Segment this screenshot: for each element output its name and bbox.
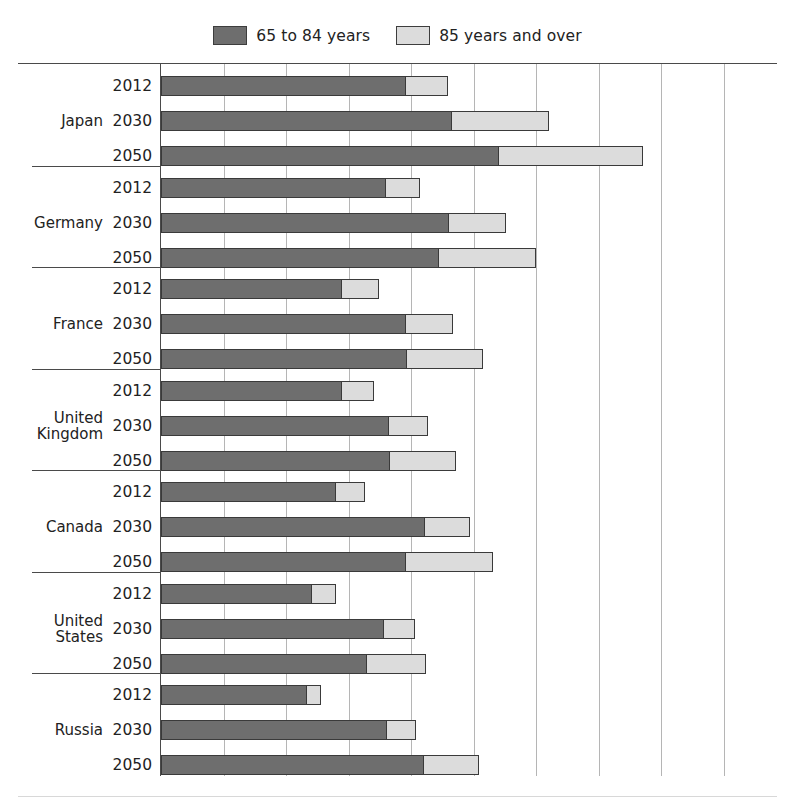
bar-row[interactable] <box>161 552 493 572</box>
bar-segment[interactable] <box>386 720 416 740</box>
group-separator <box>32 673 160 674</box>
bar-segment[interactable] <box>161 213 449 233</box>
bar-row[interactable] <box>161 654 426 674</box>
bar-segment[interactable] <box>438 248 537 268</box>
year-label: 2030 <box>113 416 152 436</box>
bar-segment[interactable] <box>161 76 406 96</box>
country-label: Russia <box>55 722 103 738</box>
bar-segment[interactable] <box>161 248 439 268</box>
bar-row[interactable] <box>161 416 428 436</box>
legend-item-85-plus: 85 years and over <box>396 26 582 45</box>
bar-segment[interactable] <box>335 482 365 502</box>
bar-segment[interactable] <box>161 619 384 639</box>
bar-segment[interactable] <box>161 314 406 334</box>
bar-row[interactable] <box>161 279 379 299</box>
legend-swatch-65-84 <box>213 26 247 45</box>
category-axis-labels: Japan201220302050Germany201220302050Fran… <box>18 64 160 776</box>
year-label: 2050 <box>113 451 152 471</box>
bar-row[interactable] <box>161 517 470 537</box>
group-separator <box>32 369 160 370</box>
bar-row[interactable] <box>161 755 479 775</box>
bar-segment[interactable] <box>341 279 379 299</box>
bottom-edge <box>18 796 777 797</box>
bar-segment[interactable] <box>161 654 367 674</box>
year-label: 2050 <box>113 349 152 369</box>
bar-row[interactable] <box>161 178 420 198</box>
bar-segment[interactable] <box>161 517 425 537</box>
group-separator <box>32 267 160 268</box>
bar-segment[interactable] <box>385 178 420 198</box>
gridline <box>724 64 725 776</box>
year-label: 2012 <box>113 584 152 604</box>
year-label: 2030 <box>113 314 152 334</box>
bar-segment[interactable] <box>161 279 342 299</box>
chart-page: 65 to 84 years 85 years and over Japan20… <box>0 0 795 809</box>
bar-segment[interactable] <box>161 349 407 369</box>
year-label: 2030 <box>113 720 152 740</box>
bar-segment[interactable] <box>366 654 426 674</box>
bar-segment[interactable] <box>306 685 321 705</box>
chart-frame: Japan201220302050Germany201220302050Fran… <box>18 63 777 775</box>
year-label: 2030 <box>113 213 152 233</box>
group-separator <box>32 470 160 471</box>
bar-segment[interactable] <box>161 146 499 166</box>
bar-row[interactable] <box>161 451 456 471</box>
bar-segment[interactable] <box>161 111 452 131</box>
year-label: 2012 <box>113 279 152 299</box>
bar-row[interactable] <box>161 111 549 131</box>
bar-row[interactable] <box>161 76 448 96</box>
group-separator <box>32 572 160 573</box>
year-label: 2030 <box>113 517 152 537</box>
bar-row[interactable] <box>161 584 336 604</box>
gridline <box>661 64 662 776</box>
year-label: 2012 <box>113 381 152 401</box>
bar-row[interactable] <box>161 482 365 502</box>
bar-segment[interactable] <box>161 755 424 775</box>
country-label: United Kingdom <box>37 410 103 442</box>
bar-segment[interactable] <box>161 482 336 502</box>
bar-segment[interactable] <box>448 213 507 233</box>
gridline <box>474 64 475 776</box>
bar-row[interactable] <box>161 213 506 233</box>
country-label: Japan <box>61 113 103 129</box>
country-label: Canada <box>46 519 103 535</box>
bar-row[interactable] <box>161 146 643 166</box>
bar-segment[interactable] <box>405 314 453 334</box>
bar-segment[interactable] <box>383 619 416 639</box>
bar-segment[interactable] <box>424 517 470 537</box>
bar-row[interactable] <box>161 314 453 334</box>
bar-segment[interactable] <box>161 720 387 740</box>
bar-segment[interactable] <box>161 381 342 401</box>
bar-row[interactable] <box>161 349 483 369</box>
bar-segment[interactable] <box>498 146 643 166</box>
country-label: Germany <box>34 215 103 231</box>
bar-segment[interactable] <box>341 381 374 401</box>
bar-segment[interactable] <box>161 552 406 572</box>
year-label: 2030 <box>113 111 152 131</box>
bar-row[interactable] <box>161 685 321 705</box>
legend-item-65-84: 65 to 84 years <box>213 26 370 45</box>
bar-segment[interactable] <box>388 416 428 436</box>
bar-segment[interactable] <box>161 416 389 436</box>
bar-segment[interactable] <box>451 111 549 131</box>
group-separator <box>32 166 160 167</box>
bar-row[interactable] <box>161 381 374 401</box>
bar-segment[interactable] <box>405 552 493 572</box>
country-label: United States <box>54 613 103 645</box>
bar-segment[interactable] <box>161 685 307 705</box>
year-label: 2012 <box>113 685 152 705</box>
bar-segment[interactable] <box>161 178 386 198</box>
bar-segment[interactable] <box>161 451 390 471</box>
bar-segment[interactable] <box>423 755 479 775</box>
bar-segment[interactable] <box>406 349 482 369</box>
year-label: 2050 <box>113 146 152 166</box>
bar-segment[interactable] <box>405 76 448 96</box>
bar-segment[interactable] <box>311 584 336 604</box>
bar-segment[interactable] <box>389 451 457 471</box>
year-label: 2050 <box>113 654 152 674</box>
bar-segment[interactable] <box>161 584 312 604</box>
bar-row[interactable] <box>161 248 536 268</box>
bar-row[interactable] <box>161 720 416 740</box>
year-label: 2012 <box>113 482 152 502</box>
bar-row[interactable] <box>161 619 415 639</box>
